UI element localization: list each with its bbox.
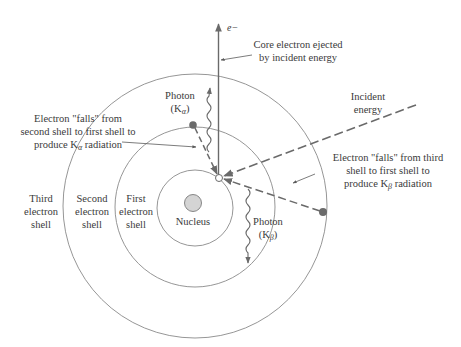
photon-k-beta-label-1: Photon bbox=[253, 216, 284, 227]
third-shell-electron bbox=[319, 208, 327, 216]
falls-third-label-3: produce Kβ radiation bbox=[344, 178, 433, 191]
nucleus-icon bbox=[185, 195, 202, 212]
core-ejected-label-1: Core electron ejected bbox=[253, 39, 343, 50]
third-shell-label-3: shell bbox=[31, 219, 51, 230]
nucleus-label: Nucleus bbox=[176, 216, 210, 227]
core-ejected-pointer bbox=[221, 55, 252, 60]
k-alpha-photon-wave bbox=[207, 88, 211, 152]
second-shell-label-3: shell bbox=[82, 219, 102, 230]
falls-second-label-2: second shell to first shell to bbox=[20, 126, 135, 137]
third-shell-label-1: Third bbox=[29, 193, 53, 204]
falls-third-pointer bbox=[293, 174, 315, 183]
k-alpha-transition-arrow bbox=[195, 128, 217, 174]
first-shell-label-3: shell bbox=[126, 219, 146, 230]
falls-third-label-2: shell to first shell to bbox=[346, 165, 429, 176]
photon-k-alpha-label-1: Photon bbox=[165, 90, 196, 101]
falls-second-label-1: Electron "falls" from bbox=[34, 113, 122, 124]
k-shell-vacancy bbox=[216, 175, 223, 182]
falls-second-label-3: produce Kα radiation bbox=[34, 139, 123, 152]
incident-energy-label-1: Incident bbox=[351, 91, 385, 102]
falls-third-label-1: Electron "falls" from third bbox=[333, 152, 444, 163]
incident-energy-label-2: energy bbox=[354, 104, 383, 115]
ejected-electron-label: e− bbox=[227, 22, 238, 33]
second-shell-label-1: Second bbox=[77, 193, 109, 204]
atom-diagram: Nucleus e− Core electron ejected by inci… bbox=[0, 0, 461, 347]
first-shell-label-2: electron bbox=[119, 206, 154, 217]
photon-k-alpha-label-2: (Kα) bbox=[171, 103, 190, 116]
falls-second-pointer bbox=[122, 142, 196, 147]
first-shell-label-1: First bbox=[126, 193, 145, 204]
core-ejected-label-2: by incident energy bbox=[259, 52, 338, 63]
third-shell-label-2: electron bbox=[24, 206, 59, 217]
second-shell-electron bbox=[189, 121, 197, 129]
second-shell-label-2: electron bbox=[75, 206, 110, 217]
k-beta-photon-wave bbox=[246, 189, 250, 263]
